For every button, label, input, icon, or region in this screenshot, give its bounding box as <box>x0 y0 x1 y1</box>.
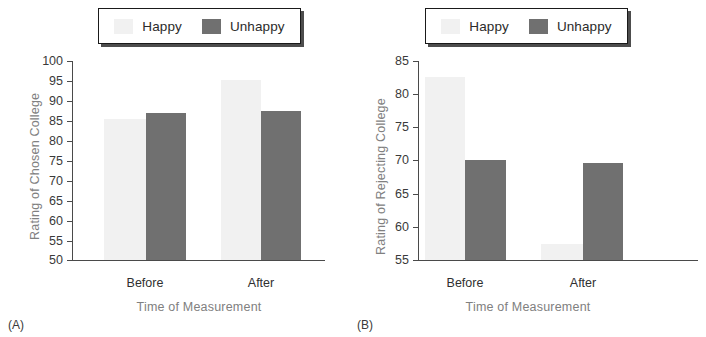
y-tick-a-70 <box>67 181 72 182</box>
x-category-label-after-a: After <box>248 276 274 290</box>
bar-before-unhappy-b <box>465 160 506 260</box>
y-tick-a-100 <box>67 61 72 62</box>
bar-after-unhappy-a <box>261 111 301 260</box>
y-tick-a-55 <box>67 241 72 242</box>
panel-tag-a: (A) <box>8 318 24 332</box>
x-axis-title-a: Time of Measurement <box>137 300 262 314</box>
x-axis-line-b <box>418 260 698 261</box>
y-tick-b-60 <box>413 227 418 228</box>
y-ticklabel-b-85: 85 <box>379 54 409 68</box>
y-ticklabel-a-100: 100 <box>33 54 63 68</box>
y-tick-b-80 <box>413 94 418 95</box>
x-category-label-before-b: Before <box>447 276 484 290</box>
plot-area-b: 85 80 75 70 65 60 55 Before After <box>353 0 706 337</box>
panel-a: Happy Unhappy 100 95 90 85 80 <box>0 0 353 337</box>
y-tick-a-60 <box>67 221 72 222</box>
y-tick-b-65 <box>413 194 418 195</box>
y-axis-line-a <box>72 61 73 261</box>
y-ticklabel-a-95: 95 <box>33 74 63 88</box>
y-ticklabel-a-50: 50 <box>33 253 63 267</box>
y-tick-b-75 <box>413 127 418 128</box>
bar-after-happy-a <box>221 80 261 260</box>
y-tick-b-55 <box>413 260 418 261</box>
y-tick-a-75 <box>67 161 72 162</box>
y-axis-title-b: Rating of Rejecting College <box>374 98 388 255</box>
panel-tag-b: (B) <box>357 318 373 332</box>
y-axis-line-b <box>418 61 419 261</box>
x-category-label-before-a: Before <box>127 276 164 290</box>
y-tick-a-50 <box>67 260 72 261</box>
bar-after-happy-b <box>541 244 583 260</box>
y-tick-a-65 <box>67 201 72 202</box>
y-axis-title-a: Rating of Chosen College <box>28 93 42 240</box>
bar-before-happy-a <box>104 119 146 260</box>
y-tick-a-90 <box>67 101 72 102</box>
y-tick-b-85 <box>413 61 418 62</box>
y-tick-a-80 <box>67 141 72 142</box>
figure-root: Happy Unhappy 100 95 90 85 80 <box>0 0 706 337</box>
x-category-label-after-b: After <box>570 276 596 290</box>
y-tick-a-95 <box>67 81 72 82</box>
panel-b: Happy Unhappy 85 80 75 70 65 60 <box>353 0 706 337</box>
plot-area-a: 100 95 90 85 80 75 70 65 60 55 50 <box>0 0 353 337</box>
y-ticklabel-b-55: 55 <box>379 253 409 267</box>
bar-before-unhappy-a <box>146 113 186 260</box>
y-tick-b-70 <box>413 160 418 161</box>
x-axis-line-a <box>72 260 325 261</box>
bar-before-happy-b <box>425 77 465 260</box>
y-tick-a-85 <box>67 121 72 122</box>
x-axis-title-b: Time of Measurement <box>466 300 591 314</box>
bar-after-unhappy-b <box>583 163 623 260</box>
